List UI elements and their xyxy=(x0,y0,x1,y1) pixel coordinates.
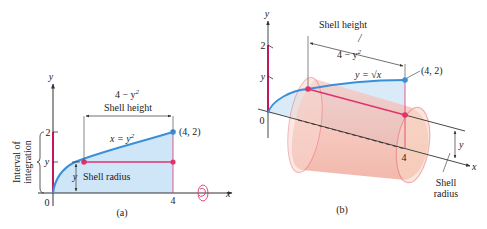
shell-radius-label-a: Shell radius xyxy=(83,171,131,182)
curve-label-a: x = y2 xyxy=(109,132,135,144)
caption-b: (b) xyxy=(336,204,348,216)
panel-b: y x 0 4 2 y Shell height 4 − y2 y = √x (… xyxy=(258,8,477,216)
curve-label-b: y = √x xyxy=(354,69,382,80)
interval-label-line2: integration xyxy=(22,140,33,183)
shell-height-label-b: Shell height xyxy=(319,19,367,30)
tick-x4-b: 4 xyxy=(402,152,407,163)
shell-method-diagram: y x 0 4 2 y 4 − y2 Shell height x = y2 (… xyxy=(0,0,487,229)
tick-y-b: y xyxy=(260,71,266,82)
caption-a: (a) xyxy=(116,207,127,219)
tick-y2-b: 2 xyxy=(261,40,266,51)
y-axis-label-b: y xyxy=(264,8,270,19)
strip-left-dot-b xyxy=(305,86,311,92)
strip-right-dot-a xyxy=(170,159,175,164)
interval-label-line1: Interval of xyxy=(11,140,22,183)
x-axis-label-a: x xyxy=(225,188,231,199)
origin-label-a: 0 xyxy=(45,197,50,208)
height-expr-a: 4 − y2 xyxy=(115,88,140,100)
strip-right-dot-b xyxy=(402,112,408,118)
tick-y2-a: 2 xyxy=(46,127,51,138)
interval-brace-a xyxy=(37,132,44,193)
shell-radius-label-b2: radius xyxy=(434,188,459,199)
point-label-b: (4, 2) xyxy=(421,65,443,77)
radius-var-b: y xyxy=(458,139,464,150)
height-expr-b: 4 − y2 xyxy=(337,48,362,60)
point-4-2-b xyxy=(402,77,408,83)
panel-a: y x 0 4 2 y 4 − y2 Shell height x = y2 (… xyxy=(11,71,232,219)
tick-y-a: y xyxy=(44,156,50,167)
shell-radius-label-b1: Shell xyxy=(436,177,457,188)
point-label-a: (4, 2) xyxy=(179,126,201,138)
origin-label-b: 0 xyxy=(260,115,265,126)
tick-x4-a: 4 xyxy=(171,195,176,206)
radius-var-a: y xyxy=(72,171,78,182)
shell-height-label-a: Shell height xyxy=(104,102,152,113)
y-axis-label-a: y xyxy=(48,71,54,82)
x-axis-label-b: x xyxy=(471,161,477,172)
